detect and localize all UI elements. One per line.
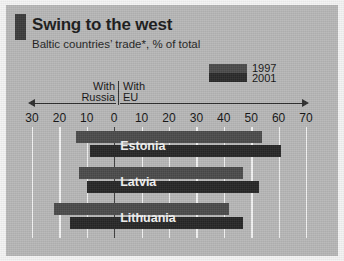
bar-groups: EstoniaLatviaLithuania <box>6 127 338 245</box>
bar-estonia-russia-2001 <box>90 145 115 157</box>
chart-legend: 1997 2001 <box>209 63 276 83</box>
axis-direction-row: With Russia With EU <box>6 81 338 109</box>
x-tick-30-0: 30 <box>25 111 38 125</box>
title-accent-block <box>15 14 26 40</box>
x-tick-10-4: 10 <box>135 111 148 125</box>
plot-area: EstoniaLatviaLithuania <box>6 127 338 245</box>
direction-divider <box>118 81 119 105</box>
x-tick-0-3: 0 <box>111 111 118 125</box>
bar-group-estonia: Estonia <box>6 131 338 161</box>
bar-lithuania-russia-2001 <box>70 217 114 229</box>
x-tick-20-5: 20 <box>162 111 175 125</box>
bar-group-lithuania: Lithuania <box>6 203 338 233</box>
arrow-right-line <box>120 103 306 104</box>
x-tick-10-2: 10 <box>80 111 93 125</box>
chart-title: Swing to the west <box>32 15 172 35</box>
x-tick-20-1: 20 <box>53 111 66 125</box>
x-tick-40-7: 40 <box>217 111 230 125</box>
direction-eu-line2: EU <box>123 92 171 103</box>
category-label-latvia: Latvia <box>120 175 156 189</box>
bar-latvia-russia-2001 <box>87 181 114 193</box>
arrow-left-line <box>32 103 116 104</box>
plot-bottom-margin <box>6 238 338 245</box>
arrow-right-icon <box>302 99 309 107</box>
x-tick-70-10: 70 <box>299 111 312 125</box>
x-axis-tick-labels: 302010010203040506070 <box>6 111 338 126</box>
legend-swatches <box>209 64 247 82</box>
legend-labels: 1997 2001 <box>252 63 276 83</box>
x-tick-50-8: 50 <box>245 111 258 125</box>
direction-label-russia: With Russia <box>67 81 115 103</box>
arrow-left-icon <box>28 99 35 107</box>
chart-figure: Swing to the west Baltic countries’ trad… <box>0 0 344 261</box>
x-tick-30-6: 30 <box>190 111 203 125</box>
chart-panel: Swing to the west Baltic countries’ trad… <box>6 5 338 256</box>
direction-russia-line2: Russia <box>67 92 115 103</box>
x-tick-60-9: 60 <box>272 111 285 125</box>
chart-subtitle: Baltic countries’ trade*, % of total <box>32 38 200 50</box>
direction-label-eu: With EU <box>123 81 171 103</box>
legend-swatch-1997 <box>209 64 247 73</box>
category-label-lithuania: Lithuania <box>120 211 176 225</box>
bar-group-latvia: Latvia <box>6 167 338 197</box>
bar-latvia-russia-1997 <box>79 167 115 179</box>
category-label-estonia: Estonia <box>120 139 165 153</box>
bar-estonia-russia-1997 <box>76 131 114 143</box>
bar-lithuania-russia-1997 <box>54 203 114 215</box>
